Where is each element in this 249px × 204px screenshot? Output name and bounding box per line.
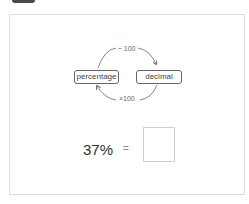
divide-by-100-label: ÷ 100 — [117, 45, 136, 52]
percentage-node: percentage — [74, 70, 119, 84]
percentage-expression: 37% — [83, 141, 113, 158]
multiply-by-100-label: ×100 — [118, 95, 136, 102]
answer-input-box[interactable] — [143, 127, 175, 162]
equals-sign: = — [123, 143, 129, 154]
decimal-node: decimal — [136, 70, 182, 84]
conversion-cycle-arrows — [0, 0, 249, 204]
